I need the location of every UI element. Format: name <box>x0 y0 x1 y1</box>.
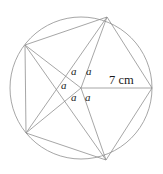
chord-top-to-lower-left <box>26 17 107 133</box>
angle-label-lower-left: a <box>71 92 77 103</box>
angle-label-lower-right: a <box>85 92 91 103</box>
angle-label-upper-left: a <box>71 66 77 77</box>
angle-label-upper-right: a <box>86 66 92 77</box>
chord-upper-left-to-bottom <box>25 45 106 160</box>
figure-canvas <box>0 0 163 174</box>
radius-to-top <box>81 17 107 88</box>
radius-measurement-label: 7 cm <box>109 74 134 87</box>
angle-label-left: a <box>61 80 67 91</box>
geometry-figure: a a a a a 7 cm <box>0 0 163 174</box>
inscribed-pentagon <box>25 17 152 160</box>
